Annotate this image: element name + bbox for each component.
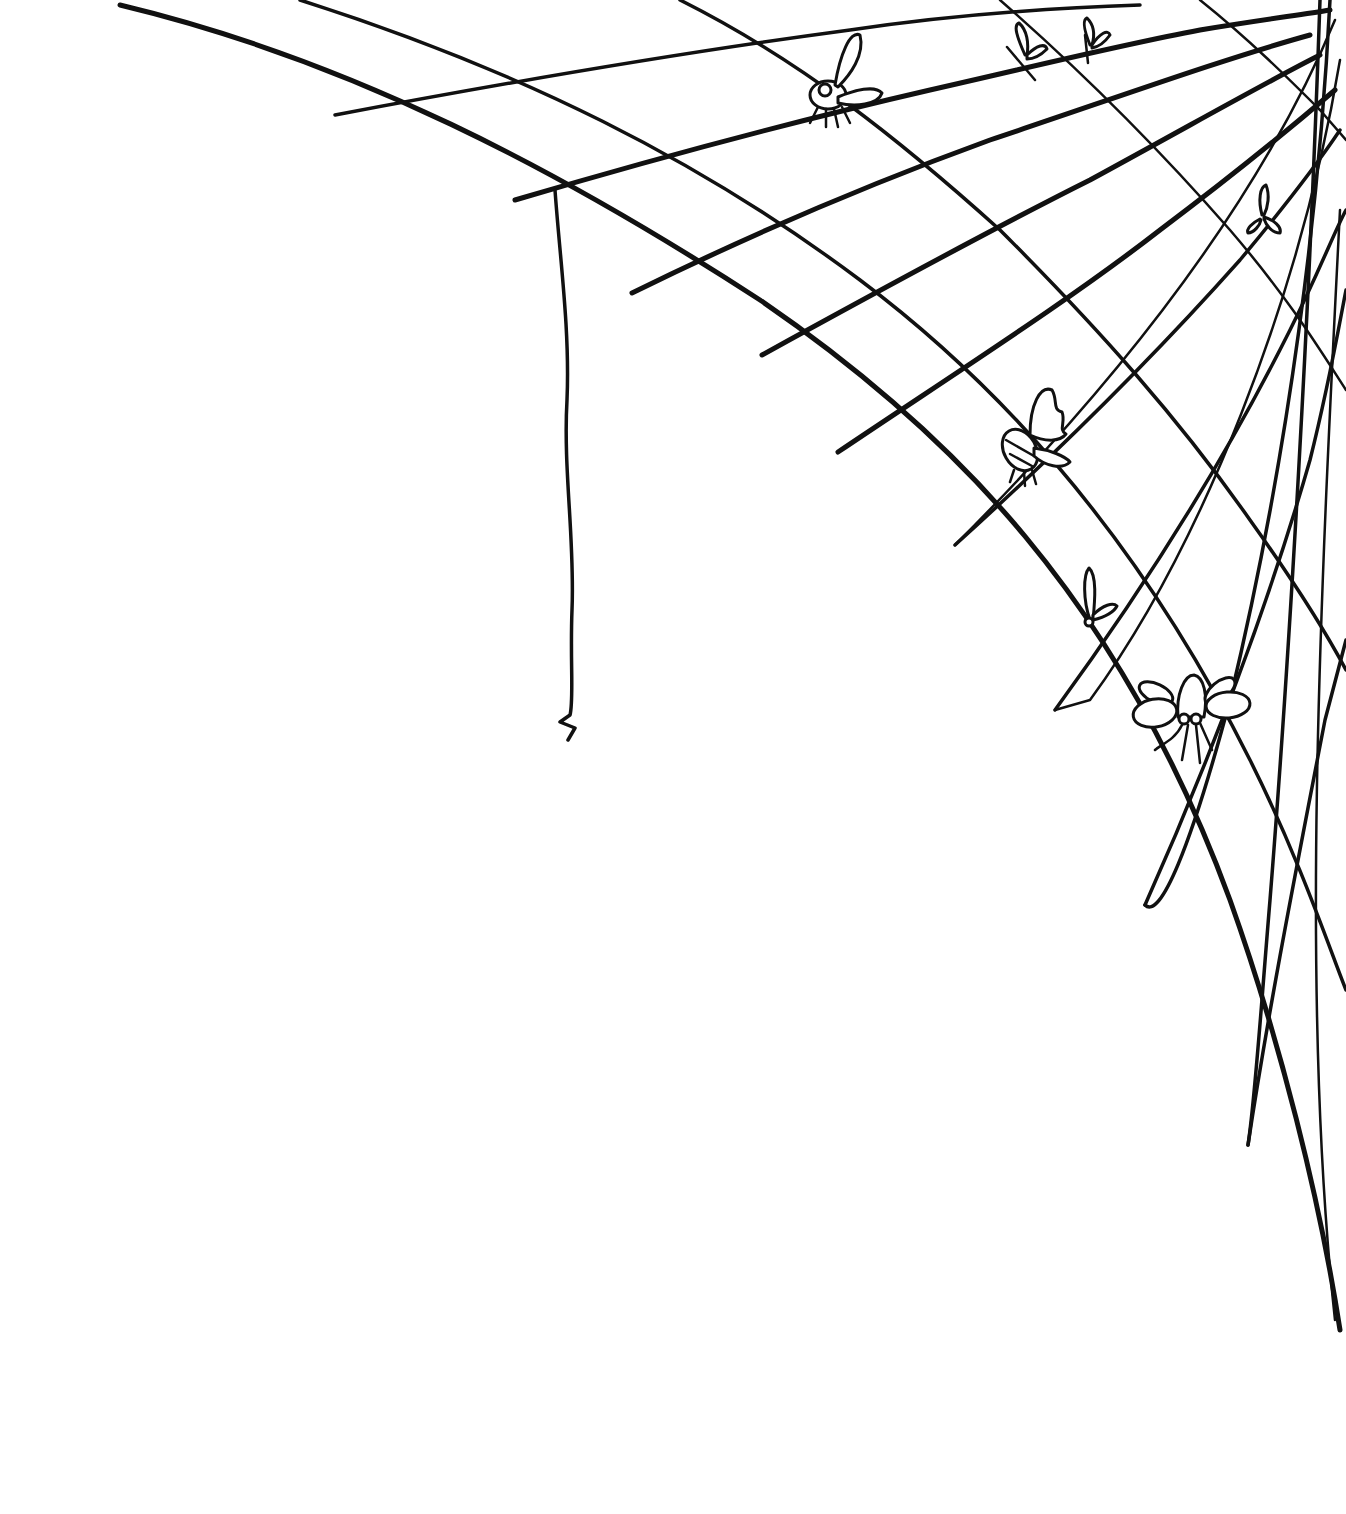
small-fly-icon [1085,568,1117,626]
small-fly-icon [1084,18,1110,63]
large-fly-icon [1131,673,1251,763]
fly-icon [810,34,882,127]
bee-icon [995,389,1070,486]
hanging-thread [555,190,575,740]
spider-web-drawing [0,0,1346,1514]
web-spiral-threads [335,5,1346,1145]
small-fly-icon [1248,185,1281,233]
web-radial-threads [120,0,1346,1330]
